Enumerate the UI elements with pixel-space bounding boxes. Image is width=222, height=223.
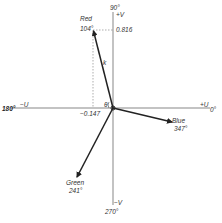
- v-projection-value: 0.816: [116, 26, 133, 33]
- angle-label: θ: [104, 101, 108, 108]
- magnitude-label: k: [103, 59, 107, 66]
- left-angle-label: 180°: [2, 105, 16, 112]
- right-axis-label: +U: [200, 101, 209, 108]
- top-axis-label: +V: [116, 11, 125, 18]
- right-angle-label: 0°: [210, 106, 217, 113]
- red-vector-angle: 104°: [80, 25, 94, 32]
- red-vector: [94, 31, 114, 108]
- left-axis-label: −U: [20, 101, 29, 108]
- green-vector-angle: 241°: [68, 187, 83, 194]
- blue-vector-name: Blue: [172, 117, 185, 124]
- angle-arc: [108, 102, 109, 108]
- top-angle-label: 90°: [110, 4, 120, 11]
- red-vector-name: Red: [80, 15, 92, 22]
- blue-vector: [113, 108, 172, 122]
- bottom-angle-label: 270°: [104, 208, 119, 215]
- green-vector: [77, 108, 113, 177]
- u-projection-value: −0.147: [80, 110, 100, 117]
- green-vector-name: Green: [66, 179, 84, 186]
- vector-diagram: 90° +V −V 270° 180° −U +U 0° 0.816 −0.14…: [0, 0, 222, 223]
- blue-vector-angle: 347°: [174, 125, 188, 132]
- bottom-axis-label: −V: [114, 199, 123, 206]
